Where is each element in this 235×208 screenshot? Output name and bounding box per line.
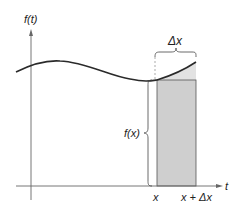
width-label: Δx: [167, 34, 183, 48]
x-axis-arrow-icon: [216, 184, 223, 188]
y-axis-arrow-icon: [29, 29, 33, 36]
x-axis-label: t: [225, 180, 229, 192]
strip-rectangle: [157, 80, 196, 186]
x-right-label: x + Δx: [180, 191, 212, 203]
height-brace: [144, 80, 152, 186]
height-label: f(x): [124, 127, 140, 139]
width-brace: [155, 48, 196, 57]
diagram-canvas: f(t) t x x + Δx f(x) Δx: [0, 0, 235, 208]
x-left-label: x: [152, 191, 159, 203]
y-axis-label: f(t): [24, 13, 38, 25]
